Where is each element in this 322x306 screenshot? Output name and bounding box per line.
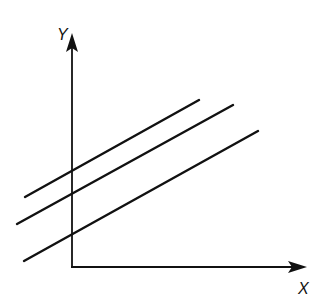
parallel-lines-diagram: Y X xyxy=(0,0,322,306)
line-3 xyxy=(24,131,258,261)
line-1 xyxy=(25,100,199,197)
x-axis-label: X xyxy=(297,280,310,297)
y-axis-label: Y xyxy=(57,26,69,43)
